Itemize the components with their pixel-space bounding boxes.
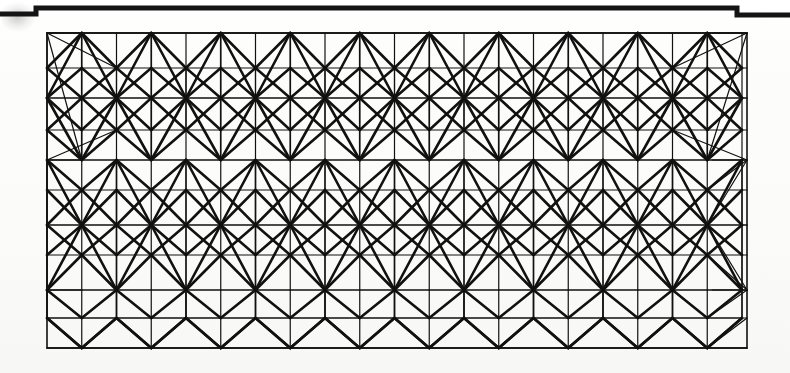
diagonal-long (256, 33, 291, 98)
diagonal (360, 290, 395, 318)
diagonal (117, 290, 152, 318)
diagonal (117, 160, 152, 190)
diagonal-long (221, 225, 256, 290)
diagonal (429, 130, 464, 160)
diagonal-long (117, 160, 152, 225)
diagonal-long (568, 98, 603, 160)
diagonal (429, 290, 464, 318)
diagonal-long (186, 225, 221, 290)
page-edge-line (0, 8, 790, 15)
diagonal (673, 160, 708, 190)
diagonal (47, 130, 82, 160)
diagonal-long (638, 33, 673, 98)
diagonal (638, 290, 673, 318)
diagonal-long (290, 160, 325, 225)
diagonal-long (360, 98, 395, 160)
diagonal (464, 160, 499, 190)
diagonal-long (499, 160, 534, 225)
diagonal (534, 290, 569, 318)
diagonal (325, 318, 360, 348)
diagonal (221, 130, 256, 160)
diagonal (638, 130, 673, 160)
diagonal (256, 160, 291, 190)
diagonal (290, 160, 325, 190)
diagonal (429, 160, 464, 190)
diagonal (568, 130, 603, 160)
diagonal (221, 290, 256, 318)
diagonal-long (568, 33, 603, 98)
diagonal-long (638, 98, 673, 160)
diagonal (82, 290, 117, 318)
edge-diagonal (47, 290, 82, 318)
diagonal (464, 318, 499, 348)
diagonal (499, 318, 534, 348)
diagonal-long (499, 33, 534, 98)
diagonal-long (47, 98, 82, 160)
diagonal (673, 130, 708, 160)
diagonal-long (464, 98, 499, 160)
diagonal-long (568, 225, 603, 290)
diagonal (221, 318, 256, 348)
diagonal-long (429, 160, 464, 225)
diagonal (568, 318, 603, 348)
diagonal (499, 290, 534, 318)
diagonal (82, 130, 117, 160)
diagonal (673, 290, 708, 318)
diagonal (499, 130, 534, 160)
diagonal (603, 318, 638, 348)
diagonal (499, 160, 534, 190)
diagonal (360, 318, 395, 348)
diagonal-long (429, 225, 464, 290)
diagonal-long (603, 33, 638, 98)
diagonal (151, 130, 186, 160)
diagonal (186, 130, 221, 160)
diagonal (568, 160, 603, 190)
diagonal (464, 290, 499, 318)
diagonal (673, 318, 708, 348)
edge-diagonal (47, 225, 82, 290)
diagonal (360, 130, 395, 160)
diagonal (603, 290, 638, 318)
diagonal (325, 130, 360, 160)
diagonal (395, 290, 430, 318)
diagonal-long (117, 225, 152, 290)
diagonal-long (534, 160, 569, 225)
diagonal-long (673, 98, 708, 160)
diagonal-long (464, 225, 499, 290)
diagonal-long (395, 225, 430, 290)
diagonal (117, 130, 152, 160)
diagonal (395, 160, 430, 190)
diagonal-long (429, 33, 464, 98)
diagonal (325, 290, 360, 318)
diagonal-long (325, 160, 360, 225)
diagonal (534, 318, 569, 348)
diagonal-long (429, 98, 464, 160)
diagonal-long (568, 160, 603, 225)
diagonal (395, 318, 430, 348)
diagonal (186, 290, 221, 318)
diagonal-long (256, 160, 291, 225)
diagonal-long (256, 98, 291, 160)
diagonal-long (256, 225, 291, 290)
diagonal-long (638, 225, 673, 290)
diagonal (82, 160, 117, 190)
scanned-page (0, 0, 790, 373)
diagonal-long (221, 33, 256, 98)
diagonal-long (395, 98, 430, 160)
diagonal-long (603, 225, 638, 290)
diagonal-long (603, 98, 638, 160)
diagonal-long (499, 98, 534, 160)
diagonal (603, 130, 638, 160)
diagonal-long (603, 160, 638, 225)
diagonal-long (638, 160, 673, 225)
diagonal-long (290, 98, 325, 160)
diagonal (117, 318, 152, 348)
diagonal-long (290, 33, 325, 98)
diagonal-long (534, 225, 569, 290)
diagonal (256, 130, 291, 160)
diagonal-long (360, 33, 395, 98)
diagonal-long (117, 98, 152, 160)
diagonal-long (464, 160, 499, 225)
diagonal (221, 160, 256, 190)
edge-diagonal (707, 225, 747, 290)
